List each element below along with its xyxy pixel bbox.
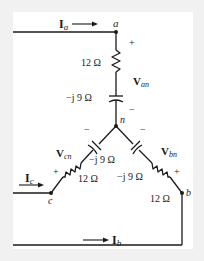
capacitor-c-label: −j 9 Ω [89, 154, 115, 165]
current-b-label: Ib [112, 233, 122, 248]
vbn-minus-sign: − [140, 124, 146, 135]
vcn-plus-sign: + [53, 166, 59, 177]
resistor-a-icon [112, 50, 120, 72]
van-plus-sign: + [129, 37, 135, 48]
voltage-bn-label: Vbn [161, 145, 177, 159]
capacitor-b-plate-1 [131, 141, 140, 150]
wire-b-mid [139, 150, 152, 163]
capacitor-c-plate-2 [88, 145, 97, 154]
circuit-diagram: Ia a + 12 Ω Van −j 9 Ω − n − − Vcn −j 9 … [0, 0, 204, 261]
current-b-arrowhead-icon [103, 238, 109, 243]
current-c-label: Ic [25, 171, 34, 186]
vcn-minus-sign: − [84, 124, 90, 135]
resistor-c-label: 12 Ω [78, 173, 98, 184]
resistor-a-label: 12 Ω [81, 57, 101, 68]
voltage-an-label: Van [133, 75, 149, 89]
resistor-b-label: 12 Ω [150, 193, 170, 204]
node-a-dot [114, 30, 118, 34]
node-c-label: c [48, 195, 53, 206]
wire-b-end [170, 177, 182, 193]
wire-n-right [116, 126, 133, 144]
van-minus-sign: − [129, 104, 135, 115]
vbn-plus-sign: + [174, 166, 180, 177]
node-n-label: n [120, 114, 125, 125]
current-a-label: Ia [59, 17, 69, 32]
node-n-dot [114, 124, 118, 128]
current-a-arrowhead-icon [92, 22, 98, 27]
current-c-arrowhead-icon [38, 183, 44, 188]
wire-c-end [51, 177, 63, 193]
node-b-dot [180, 191, 184, 195]
voltage-cn-label: Vcn [56, 147, 72, 161]
capacitor-a-label: −j 9 Ω [66, 92, 92, 103]
node-a-label: a [113, 17, 119, 29]
wire-n-left [99, 126, 116, 144]
capacitor-b-label: −j 9 Ω [117, 171, 143, 182]
node-b-label: b [186, 187, 191, 198]
resistor-b-icon [152, 163, 170, 177]
